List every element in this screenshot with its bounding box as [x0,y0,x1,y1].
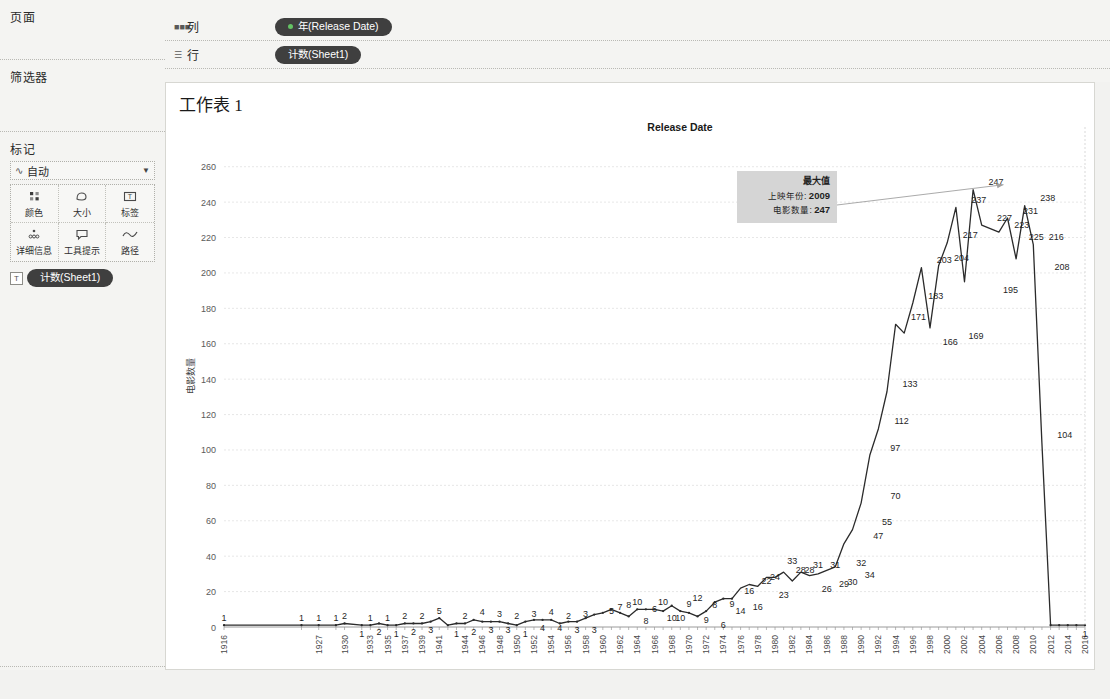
svg-text:40: 40 [206,552,216,562]
svg-text:1937: 1937 [400,635,410,654]
svg-text:2002: 2002 [959,635,969,654]
annotation-count-label: 电影数量: [773,205,811,215]
filters-dropzone[interactable] [10,89,155,129]
bottom-strip [0,670,1110,699]
svg-text:31: 31 [830,560,840,570]
svg-text:1: 1 [394,629,399,639]
svg-text:169: 169 [968,331,983,341]
columns-pill-year-release-date[interactable]: 年(Release Date) [275,18,392,36]
svg-text:238: 238 [1040,193,1055,203]
svg-text:2010: 2010 [1028,635,1038,654]
svg-text:34: 34 [865,570,875,580]
rows-pill-count-sheet1[interactable]: 计数(Sheet1) [275,46,361,64]
svg-text:1935: 1935 [383,635,393,654]
svg-text:183: 183 [928,291,943,301]
svg-text:1933: 1933 [365,635,375,654]
worksheet-view: 工作表 1 Release Date 电影数量 0204060801001201… [165,82,1095,670]
svg-text:16: 16 [753,602,763,612]
marks-card-detail[interactable]: 详细信息 [11,223,59,261]
tooltip-icon [75,227,89,242]
marks-card-label[interactable]: T 标签 [106,185,154,223]
svg-text:2: 2 [471,627,476,637]
marks-card-color-label: 颜色 [25,206,43,219]
svg-text:5: 5 [609,606,614,616]
line-chart-plot[interactable]: 0204060801001201401601802002202402601916… [166,83,1096,671]
svg-text:1972: 1972 [701,635,711,654]
svg-text:1: 1 [385,613,390,623]
svg-text:24: 24 [770,572,780,582]
svg-text:1988: 1988 [839,635,849,654]
left-panel: 页面 筛选器 标记 ∿ 自动 ▼ [0,0,165,699]
svg-text:1970: 1970 [684,635,694,654]
svg-text:203: 203 [937,255,952,265]
pages-title: 页面 [10,8,155,25]
svg-text:1930: 1930 [340,635,350,654]
marks-type-dropdown[interactable]: ∿ 自动 ▼ [10,161,155,180]
svg-text:3: 3 [497,609,502,619]
svg-text:1964: 1964 [632,635,642,654]
svg-text:1939: 1939 [417,635,427,654]
svg-text:133: 133 [902,379,917,389]
pages-dropzone[interactable] [10,29,155,59]
svg-text:5: 5 [437,606,442,616]
svg-text:1: 1 [368,613,373,623]
svg-text:1: 1 [359,629,364,639]
svg-text:3: 3 [506,625,511,635]
svg-text:4: 4 [540,623,545,633]
marks-card-color[interactable]: 颜色 [11,185,59,223]
svg-text:2: 2 [566,611,571,621]
annotation-line-year: 上映年份: 2009 [744,189,830,203]
columns-shelf[interactable]: ■■■ 列 年(Release Date) [165,13,1110,41]
svg-text:227: 227 [997,213,1012,223]
svg-text:70: 70 [891,491,901,501]
max-value-annotation[interactable]: 最大值 上映年份: 2009 电影数量: 247 [737,171,837,223]
svg-text:1978: 1978 [753,635,763,654]
tableau-window: 页面 筛选器 标记 ∿ 自动 ▼ [0,0,1110,699]
svg-text:1992: 1992 [873,635,883,654]
svg-text:2: 2 [514,611,519,621]
svg-text:4: 4 [549,607,554,617]
svg-text:1948: 1948 [495,635,505,654]
svg-text:260: 260 [201,162,216,172]
rows-icon: ☰ [174,50,186,60]
color-icon [28,189,41,204]
svg-text:30: 30 [848,577,858,587]
svg-text:237: 237 [971,195,986,205]
path-icon [122,227,138,242]
svg-text:112: 112 [894,416,908,426]
svg-text:2: 2 [342,611,347,621]
svg-text:180: 180 [201,304,216,314]
svg-text:3: 3 [592,625,597,635]
label-card-icon: T [10,272,23,285]
rows-shelf[interactable]: ☰ 行 计数(Sheet1) [165,41,1110,69]
svg-text:9: 9 [704,615,709,625]
filters-section: 筛选器 [0,60,165,132]
svg-text:100: 100 [201,445,216,455]
marks-section: 标记 ∿ 自动 ▼ 颜色 [0,132,165,293]
svg-text:1994: 1994 [891,635,901,654]
svg-text:T: T [128,193,133,200]
marks-card-path[interactable]: 路径 [106,223,154,261]
svg-text:2008: 2008 [1011,635,1021,654]
svg-text:1956: 1956 [563,635,573,654]
marks-measure-pill[interactable]: 计数(Sheet1) [27,269,113,287]
svg-text:10: 10 [658,597,668,607]
svg-text:2006: 2006 [994,635,1004,654]
svg-text:1944: 1944 [460,635,470,654]
svg-text:32: 32 [856,558,866,568]
marks-card-tooltip[interactable]: 工具提示 [59,223,107,261]
svg-text:1996: 1996 [908,635,918,654]
svg-text:47: 47 [873,531,883,541]
pages-section: 页面 [0,0,165,60]
svg-text:10: 10 [632,597,642,607]
svg-text:240: 240 [201,198,216,208]
svg-text:7: 7 [618,602,623,612]
svg-text:1: 1 [299,613,304,623]
svg-text:2: 2 [463,611,468,621]
columns-shelf-label: 列 [187,18,275,35]
svg-text:1958: 1958 [581,635,591,654]
svg-text:3: 3 [583,609,588,619]
svg-text:1986: 1986 [822,635,832,654]
marks-card-size[interactable]: 大小 [59,185,107,223]
svg-text:16: 16 [744,586,754,596]
